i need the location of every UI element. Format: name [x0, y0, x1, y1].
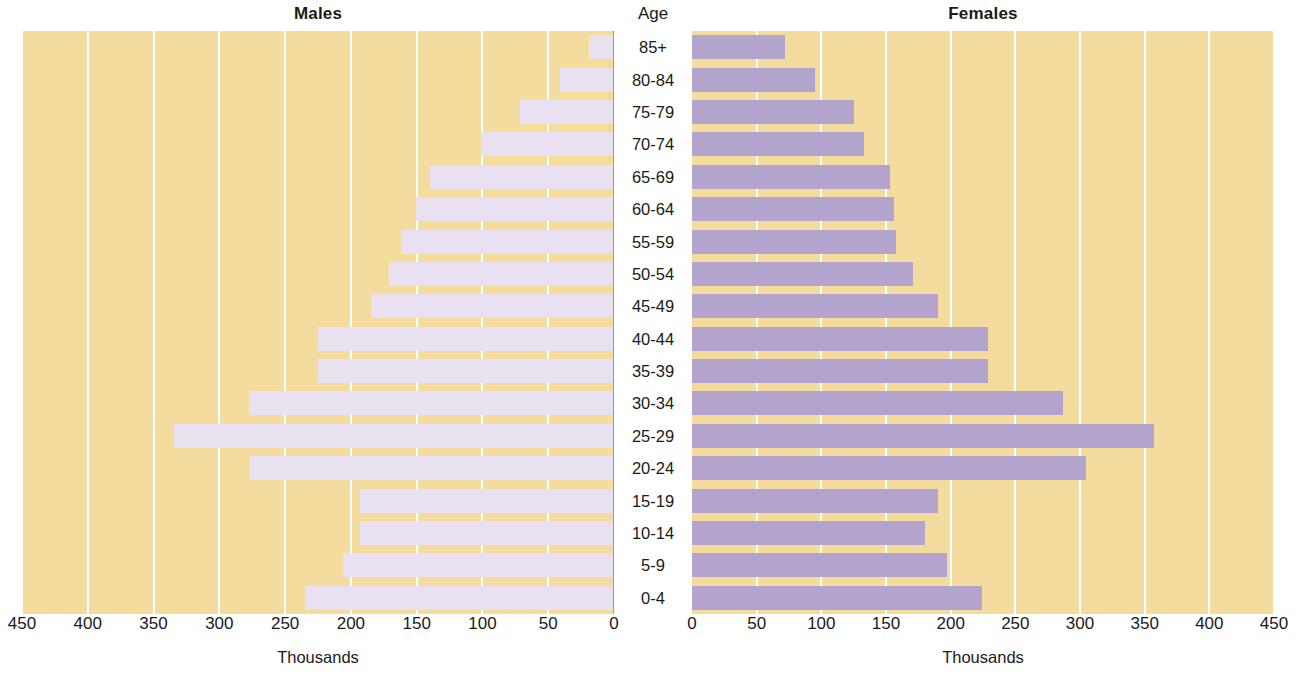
axis-tick-0: 0	[584, 614, 644, 634]
bar-males-60-64	[416, 197, 613, 221]
plot-area-males	[22, 31, 614, 614]
axis-tick-200: 200	[321, 614, 381, 634]
axis-tick-300: 300	[1050, 614, 1110, 634]
age-label-20-24: 20-24	[614, 460, 692, 476]
bar-males-20-24	[250, 456, 613, 480]
bar-females-30-34	[692, 391, 1063, 415]
age-label-80-84: 80-84	[614, 72, 692, 88]
axis-tick-150: 150	[387, 614, 447, 634]
age-label-25-29: 25-29	[614, 428, 692, 444]
bar-females-85+	[692, 35, 785, 59]
bar-females-0-4	[692, 586, 982, 610]
bar-females-5-9	[692, 553, 947, 577]
age-label-50-54: 50-54	[614, 266, 692, 282]
bar-females-70-74	[692, 132, 864, 156]
axis-tick-400: 400	[1179, 614, 1239, 634]
bar-males-15-19	[360, 489, 613, 513]
age-label-75-79: 75-79	[614, 104, 692, 120]
axis-tick-100: 100	[791, 614, 851, 634]
x-axis-females: 050100150200250300350400450	[692, 614, 1274, 642]
age-label-65-69: 65-69	[614, 169, 692, 185]
bar-series-females	[692, 31, 1274, 614]
age-label-70-74: 70-74	[614, 136, 692, 152]
plot-area-females	[692, 31, 1274, 614]
bar-males-55-59	[401, 230, 613, 254]
population-pyramid-chart: Males Age Females 85+80-8475-7970-7465-6…	[0, 0, 1315, 679]
bar-males-75-79	[520, 100, 613, 124]
x-axis-males: 450400350300250200150100500	[22, 614, 614, 642]
bar-series-males	[22, 31, 613, 614]
bar-males-85+	[589, 35, 613, 59]
bar-females-15-19	[692, 489, 938, 513]
bar-females-80-84	[692, 68, 815, 92]
age-label-55-59: 55-59	[614, 234, 692, 250]
bar-males-50-54	[389, 262, 613, 286]
bar-males-80-84	[560, 68, 613, 92]
axis-tick-350: 350	[124, 614, 184, 634]
bar-females-20-24	[692, 456, 1086, 480]
chart-title-males: Males	[22, 4, 614, 24]
age-label-45-49: 45-49	[614, 298, 692, 314]
age-label-85+: 85+	[614, 39, 692, 55]
bar-females-40-44	[692, 327, 988, 351]
age-label-column: 85+80-8475-7970-7465-6960-6455-5950-5445…	[614, 31, 692, 614]
bar-females-75-79	[692, 100, 854, 124]
axis-tick-100: 100	[452, 614, 512, 634]
bar-males-40-44	[318, 327, 613, 351]
x-axis-title-males: Thousands	[22, 648, 614, 667]
axis-tick-300: 300	[189, 614, 249, 634]
axis-tick-350: 350	[1115, 614, 1175, 634]
age-label-35-39: 35-39	[614, 363, 692, 379]
bar-females-35-39	[692, 359, 988, 383]
age-label-15-19: 15-19	[614, 493, 692, 509]
age-label-60-64: 60-64	[614, 201, 692, 217]
bar-females-65-69	[692, 165, 890, 189]
bar-females-55-59	[692, 230, 896, 254]
bar-females-10-14	[692, 521, 925, 545]
chart-title-age: Age	[614, 4, 692, 24]
chart-title-females: Females	[692, 4, 1274, 24]
bar-males-45-49	[371, 294, 613, 318]
bar-females-25-29	[692, 424, 1154, 448]
bar-males-25-29	[174, 424, 613, 448]
x-axis-title-females: Thousands	[692, 648, 1274, 667]
bar-males-65-69	[430, 165, 613, 189]
bar-males-5-9	[343, 553, 613, 577]
axis-tick-0: 0	[662, 614, 722, 634]
bar-females-60-64	[692, 197, 894, 221]
bar-females-45-49	[692, 294, 938, 318]
axis-tick-200: 200	[921, 614, 981, 634]
age-label-30-34: 30-34	[614, 395, 692, 411]
axis-tick-250: 250	[255, 614, 315, 634]
bar-females-50-54	[692, 262, 913, 286]
bar-males-30-34	[249, 391, 613, 415]
axis-tick-450: 450	[0, 614, 52, 634]
axis-tick-400: 400	[58, 614, 118, 634]
axis-tick-50: 50	[518, 614, 578, 634]
age-label-0-4: 0-4	[614, 590, 692, 606]
bar-males-35-39	[318, 359, 613, 383]
axis-tick-150: 150	[856, 614, 916, 634]
axis-tick-450: 450	[1244, 614, 1304, 634]
bar-males-70-74	[481, 132, 613, 156]
axis-tick-250: 250	[985, 614, 1045, 634]
age-label-40-44: 40-44	[614, 331, 692, 347]
age-label-5-9: 5-9	[614, 557, 692, 573]
bar-males-0-4	[305, 586, 613, 610]
age-label-10-14: 10-14	[614, 525, 692, 541]
bar-males-10-14	[360, 521, 613, 545]
axis-tick-50: 50	[727, 614, 787, 634]
